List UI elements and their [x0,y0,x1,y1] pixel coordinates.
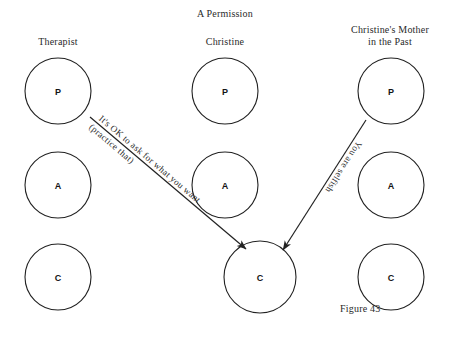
letter-therapist-adult: A [55,181,62,191]
arrow-line-injunction [283,120,366,250]
letter-therapist-parent: P [55,87,61,97]
letter-mother-adult: A [388,181,395,191]
letter-mother-parent: P [388,87,394,97]
figure-caption: Figure 43 [340,303,380,315]
column-christine: P A C [192,58,296,313]
column-therapist: P A C [25,58,91,310]
letter-therapist-child: C [55,273,62,283]
figure-canvas: A Permission Therapist Christine Christi… [0,0,449,339]
ego-state-diagram: P A C P A C P A C [0,0,449,339]
letter-christine-adult: A [222,181,229,191]
arrow-label-permission-line-1: It's OK to ask for what you want [97,113,203,205]
letter-christine-parent: P [222,87,228,97]
letter-christine-child: C [257,273,264,283]
column-christines-mother: P A C [358,58,424,310]
arrow-label-permission-text-1: It's OK to ask for what you want [97,113,203,205]
letter-mother-child: C [388,273,395,283]
transaction-arrow-injunction[interactable]: You are selfish [283,120,366,250]
